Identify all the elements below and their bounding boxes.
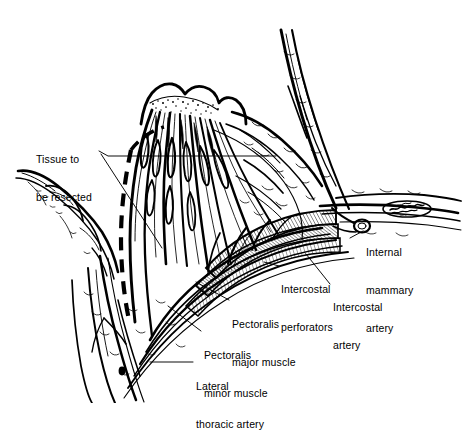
- label-tissue-to-be-resected: Tissue to be resected: [36, 128, 92, 216]
- label-intercostal-artery: Intercostal artery: [333, 276, 383, 364]
- label-lateral-thoracic-artery: Lateral thoracic artery: [196, 355, 264, 434]
- lateral-thoracic-artery-endpoint: [119, 367, 126, 376]
- label-line: thoracic artery: [196, 418, 264, 431]
- label-line: Internal: [366, 246, 413, 259]
- label-line: Lateral: [196, 380, 264, 393]
- label-line: Tissue to: [36, 153, 92, 166]
- label-line: artery: [333, 339, 383, 352]
- label-line: Intercostal: [333, 301, 383, 314]
- label-line: be resected: [36, 191, 92, 204]
